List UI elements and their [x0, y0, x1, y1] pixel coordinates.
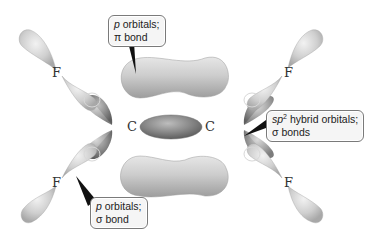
callout-pi-bond: p orbitals; π bond — [108, 15, 166, 47]
callout-sp2-line1-italic: sp — [272, 113, 283, 125]
callout-psigma-line2: σ bond — [96, 213, 142, 226]
callout-sp2-line2: σ bonds — [272, 126, 358, 139]
c2f4-orbital-diagram: F F F F C C p orbitals; π bond sp2 hybri… — [0, 0, 379, 236]
pi-bond-bottom-lobe — [120, 156, 228, 197]
callout-pi-line2: π bond — [114, 31, 160, 44]
fluorine-label-top-left: F — [52, 66, 61, 79]
fluorine-label-top-right: F — [284, 66, 293, 79]
cc-sigma-bond-lobe — [140, 115, 202, 139]
fluorine-label-bottom-left: F — [52, 176, 61, 189]
carbon-label-left: C — [127, 120, 137, 133]
carbon-label-right: C — [205, 120, 215, 133]
callout-psigma-line1: orbitals; — [102, 200, 142, 212]
fluorine-label-bottom-right: F — [284, 176, 293, 189]
callout-p-sigma: p orbitals; σ bond — [90, 197, 148, 229]
callout-sp2-line1: hybrid orbitals; — [287, 113, 358, 125]
callout-pi-line1: orbitals; — [120, 18, 160, 30]
pi-bond-top-lobe — [121, 57, 228, 98]
callout-sp2-sigma: sp2 hybrid orbitals; σ bonds — [266, 110, 364, 142]
